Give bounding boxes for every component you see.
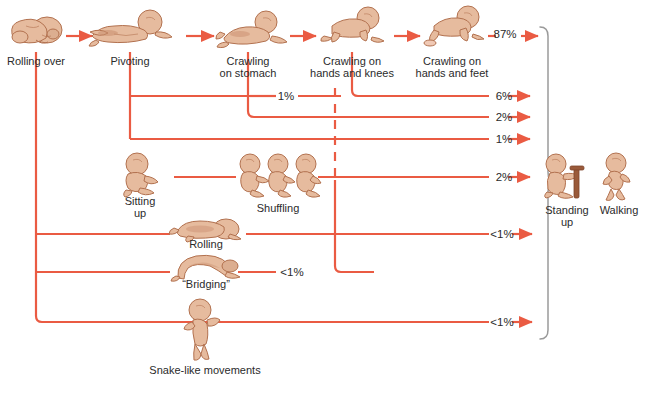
- percent-1-inline: 1%: [272, 90, 300, 102]
- figure-crawling-hands-feet: [420, 4, 490, 50]
- figure-standing-up: [542, 152, 592, 202]
- percent-1-a: 1%: [489, 133, 519, 145]
- label-sitting-up: Sitting up: [112, 195, 168, 219]
- label-crawling-hands-knees: Crawling on hands and knees: [298, 55, 406, 79]
- figure-snake-like-movements: [178, 298, 232, 364]
- percent-lt1-rolling: <1%: [482, 228, 522, 240]
- figure-pivoting: [88, 6, 180, 50]
- percent-2-a: 2%: [489, 111, 519, 123]
- figure-walking: [598, 152, 638, 202]
- label-standing-up: Standing up: [540, 204, 594, 228]
- line-spine-lower: [335, 180, 374, 272]
- label-snake-like-movements: Snake-like movements: [140, 364, 270, 376]
- percent-2-b: 2%: [489, 171, 519, 183]
- figure-rolling-over: [6, 8, 68, 48]
- figure-crawling-on-stomach: [214, 8, 292, 50]
- label-rolling: Rolling: [172, 238, 240, 250]
- percent-lt1-snake: <1%: [482, 316, 522, 328]
- label-shuffling: Shuffling: [240, 202, 316, 214]
- label-walking: Walking: [594, 204, 644, 216]
- figure-shuffling: [236, 152, 320, 202]
- percent-87: 87%: [488, 28, 522, 40]
- figure-sitting-up: [118, 152, 164, 200]
- label-bridging: “Bridging”: [168, 278, 244, 290]
- percent-lt1-bridging: <1%: [272, 266, 312, 278]
- percent-6: 6%: [489, 90, 519, 102]
- label-rolling-over: Rolling over: [0, 55, 72, 67]
- label-crawling-on-stomach: Crawling on stomach: [210, 55, 286, 79]
- figure-crawling-hands-knees: [318, 4, 390, 50]
- label-pivoting: Pivoting: [94, 55, 166, 67]
- label-crawling-hands-feet: Crawling on hands and feet: [400, 55, 504, 79]
- diagram-canvas: Rolling over Pivoting Crawling on stomac…: [0, 0, 649, 395]
